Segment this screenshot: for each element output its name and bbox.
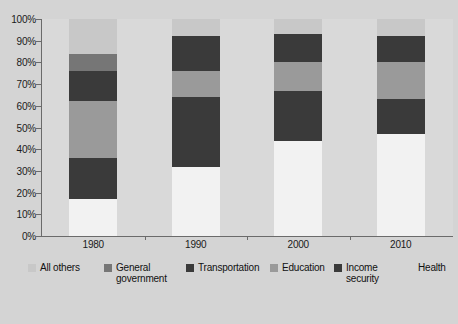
bar-segment-all-others[interactable]: [377, 19, 425, 36]
bar-segment-income-security[interactable]: [172, 97, 220, 166]
bar-stack[interactable]: [274, 19, 322, 236]
y-axis-tick-label: 70%: [17, 79, 36, 90]
bar-group-2000: [247, 19, 350, 236]
chart-legend: All othersGeneral governmentTransportati…: [0, 262, 458, 302]
y-axis-tick-label: 0%: [22, 231, 36, 242]
bars-layer: [42, 19, 452, 236]
legend-item-education[interactable]: Education: [270, 262, 325, 273]
legend-label: Health: [418, 262, 446, 273]
bar-segment-income-security[interactable]: [69, 158, 117, 199]
legend-item-all-others[interactable]: All others: [28, 262, 80, 273]
bar-segment-transportation[interactable]: [274, 34, 322, 62]
bar-segment-all-others[interactable]: [69, 19, 117, 54]
legend-swatch-icon: [104, 264, 112, 272]
x-axis-tick-label: 1980: [83, 239, 104, 250]
bar-group-1980: [42, 19, 145, 236]
legend-item-income-security[interactable]: Income security: [334, 262, 408, 284]
x-axis: 1980199020002010: [42, 239, 452, 255]
bar-segment-all-others[interactable]: [274, 19, 322, 34]
bar-stack[interactable]: [69, 19, 117, 236]
bar-group-2010: [350, 19, 453, 236]
y-axis-tick-label: 20%: [17, 187, 36, 198]
bar-segment-education[interactable]: [69, 101, 117, 157]
y-axis-tick-label: 60%: [17, 100, 36, 111]
y-axis-tick-label: 50%: [17, 122, 36, 133]
x-axis-tick-label: 1990: [185, 239, 206, 250]
bar-segment-general-government[interactable]: [69, 54, 117, 71]
legend-label: Income security: [346, 262, 408, 284]
bar-group-1990: [145, 19, 248, 236]
legend-item-general-government[interactable]: General government: [104, 262, 178, 284]
y-axis-tick-label: 80%: [17, 57, 36, 68]
x-axis-tick-label: 2000: [288, 239, 309, 250]
legend-swatch-icon: [28, 264, 36, 272]
legend-label: Education: [282, 262, 325, 273]
y-axis-tick-label: 30%: [17, 165, 36, 176]
legend-label: All others: [40, 262, 80, 273]
bar-stack[interactable]: [172, 19, 220, 236]
legend-label: General government: [116, 262, 178, 284]
bar-segment-all-others[interactable]: [172, 19, 220, 36]
legend-swatch-icon: [186, 264, 194, 272]
legend-item-health[interactable]: Health: [406, 262, 446, 273]
legend-item-transportation[interactable]: Transportation: [186, 262, 259, 273]
y-axis-tick-label: 100%: [11, 14, 36, 25]
bar-segment-education[interactable]: [377, 62, 425, 99]
bar-segment-health[interactable]: [274, 141, 322, 236]
bar-segment-income-security[interactable]: [274, 91, 322, 141]
y-axis-tick-label: 40%: [17, 144, 36, 155]
legend-swatch-icon: [270, 264, 278, 272]
legend-label: Transportation: [198, 262, 259, 273]
bar-segment-transportation[interactable]: [69, 71, 117, 101]
bar-segment-transportation[interactable]: [172, 36, 220, 71]
bar-segment-education[interactable]: [274, 62, 322, 90]
bar-segment-health[interactable]: [69, 199, 117, 236]
bar-segment-health[interactable]: [172, 167, 220, 236]
bar-segment-income-security[interactable]: [377, 99, 425, 134]
bar-segment-health[interactable]: [377, 134, 425, 236]
y-axis: 0%10%20%30%40%50%60%70%80%90%100%: [0, 19, 36, 236]
legend-swatch-icon: [334, 264, 342, 272]
x-axis-tick-label: 2010: [390, 239, 411, 250]
bar-segment-transportation[interactable]: [377, 36, 425, 62]
stacked-bar-chart: 0%10%20%30%40%50%60%70%80%90%100% 198019…: [0, 0, 458, 324]
y-axis-tick-label: 90%: [17, 35, 36, 46]
bar-segment-education[interactable]: [172, 71, 220, 97]
bar-stack[interactable]: [377, 19, 425, 236]
y-axis-tick-label: 10%: [17, 209, 36, 220]
